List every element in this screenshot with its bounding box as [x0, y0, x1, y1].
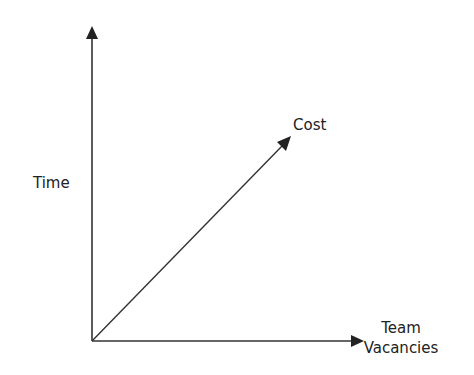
x-axis-label: Team Vacancies [360, 318, 442, 358]
x-axis-label-line1: Team [360, 318, 442, 338]
y-axis-arrowhead-icon [86, 26, 98, 39]
cost-vector [92, 145, 283, 341]
x-axis-label-line2: Vacancies [360, 338, 442, 358]
cost-vector-label: Cost [293, 115, 326, 135]
diagram-canvas: Time Cost Team Vacancies [0, 0, 474, 375]
y-axis-label: Time [33, 173, 70, 193]
